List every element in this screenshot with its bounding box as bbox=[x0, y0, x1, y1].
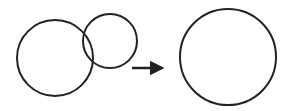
small-left-circle bbox=[83, 14, 137, 68]
large-left-circle bbox=[17, 20, 93, 96]
result-circle bbox=[180, 9, 276, 105]
merge-diagram bbox=[0, 0, 293, 111]
